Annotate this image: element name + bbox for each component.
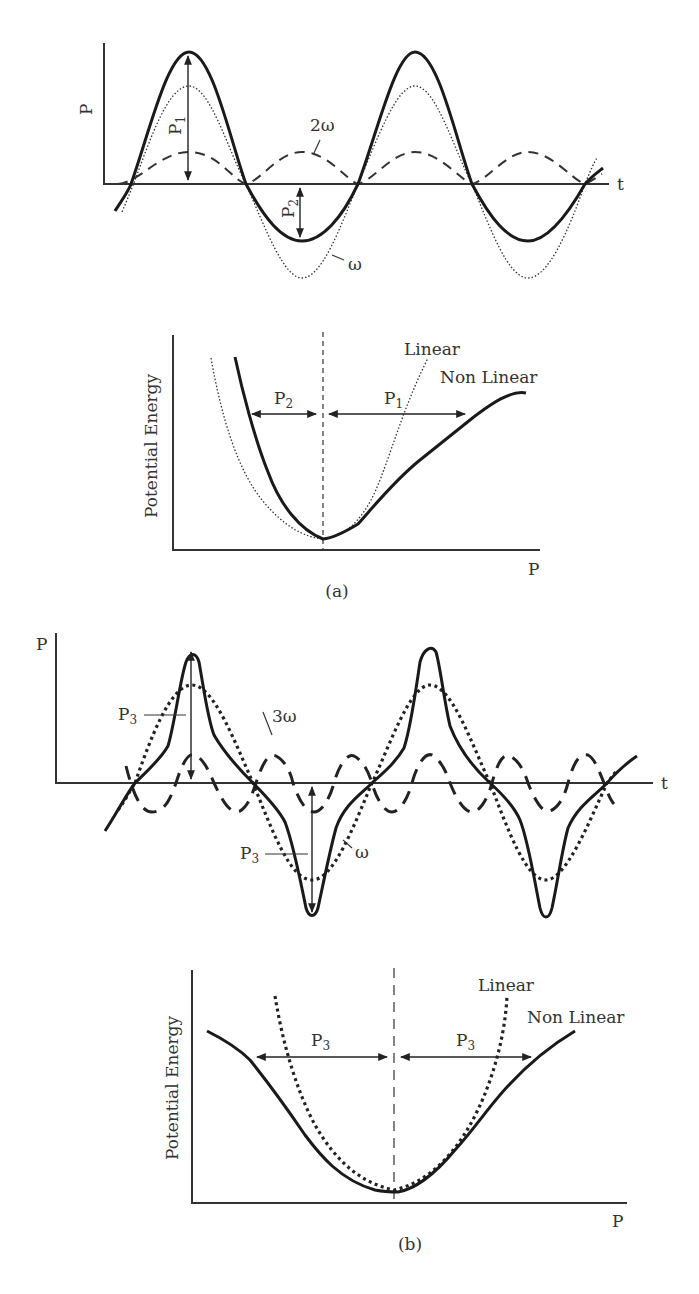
two-omega-label: 2ω <box>310 115 335 135</box>
two-omega-leader <box>314 140 320 153</box>
three-omega-label: 3ω <box>272 706 297 726</box>
linear-legend-label: Linear <box>478 975 535 995</box>
nonlinear-potential-curve <box>207 1031 575 1192</box>
p1-energy-label: P1 <box>384 388 403 411</box>
panel-a-energy-plot <box>172 332 540 551</box>
panel-a-time-plot <box>104 43 609 278</box>
caption-b: (b) <box>398 1234 422 1254</box>
t-axis-label: t <box>661 773 668 793</box>
panel-b-energy-plot <box>191 968 627 1204</box>
p3-left-energy-label: P3 <box>311 1030 330 1053</box>
p1-label: P1 <box>165 116 188 135</box>
linear-potential-curve <box>275 996 507 1190</box>
caption-a: (a) <box>325 581 348 601</box>
p3-right-energy-label: P3 <box>456 1030 475 1053</box>
energy-y-axis-label: Potential Energy <box>162 1016 182 1160</box>
omega-label: ω <box>348 254 362 274</box>
panel-b-time-plot <box>56 633 653 917</box>
svg-text:P1: P1 <box>165 116 188 135</box>
p2-energy-label: P2 <box>274 388 293 411</box>
linear-potential-curve <box>211 358 428 539</box>
figure-canvas: P t P1 P2 2ω ω Potential Energy P Linear… <box>0 0 699 1294</box>
nonlinear-legend-label: Non Linear <box>527 1007 625 1027</box>
p3-bottom-label: P3 <box>240 843 259 866</box>
svg-text:P2: P2 <box>278 199 301 218</box>
y-axis-label: P <box>76 104 96 115</box>
nonlinear-legend-label: Non Linear <box>440 367 538 387</box>
omega-leader <box>332 255 344 260</box>
three-omega-leader <box>263 712 272 735</box>
p2-label: P2 <box>278 199 301 218</box>
energy-x-axis-label: P <box>612 1211 623 1231</box>
t-axis-label: t <box>617 174 624 194</box>
energy-x-axis-label: P <box>528 559 539 579</box>
linear-legend-label: Linear <box>404 339 461 359</box>
omega-label: ω <box>355 842 369 862</box>
energy-y-axis-label: Potential Energy <box>141 374 161 518</box>
y-axis-label: P <box>36 634 47 654</box>
p3-top-label: P3 <box>118 704 137 727</box>
